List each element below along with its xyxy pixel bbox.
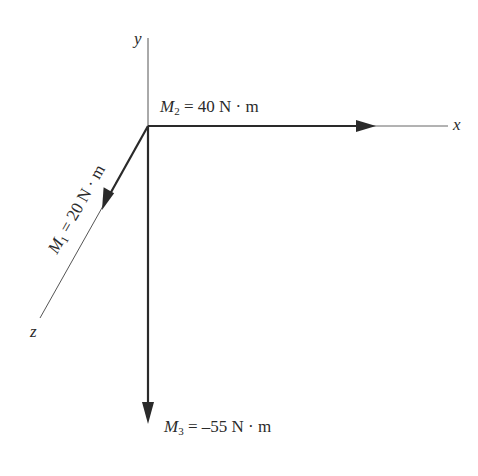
moment-m1-arrow xyxy=(102,126,148,210)
y-axis-label: y xyxy=(134,30,142,47)
moment-m2-label: M2 = 40 N · m xyxy=(160,98,259,117)
moment-m2-arrow xyxy=(148,120,376,132)
moment-m3-arrow xyxy=(142,126,154,424)
z-axis-label: z xyxy=(30,323,37,340)
moment-m3-label: M3 = –55 N · m xyxy=(164,418,271,437)
x-axis-label: x xyxy=(453,116,461,133)
